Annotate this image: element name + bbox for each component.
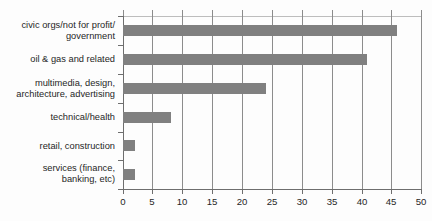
gridline-10 — [182, 16, 183, 189]
category-label: services (finance, banking, etc) — [0, 163, 115, 186]
x-axis-tick — [152, 189, 153, 194]
x-axis-tick-label: 5 — [137, 196, 167, 207]
bar-civic-orgs — [123, 25, 397, 36]
x-axis-tick-label: 20 — [227, 196, 257, 207]
category-label: oil & gas and related — [0, 54, 115, 65]
category-axis-labels: civic orgs/not for profit/ government oi… — [0, 16, 119, 189]
category-label: retail, construction — [0, 141, 115, 152]
gridline-50 — [421, 16, 422, 189]
category-label: technical/health — [0, 112, 115, 123]
gridline-0 — [123, 16, 124, 189]
x-axis-tick — [421, 189, 422, 194]
x-axis-tick — [123, 189, 124, 194]
x-axis-tick-label: 25 — [257, 196, 287, 207]
x-axis-tick-label: 10 — [167, 196, 197, 207]
gridline-25 — [272, 16, 273, 189]
x-axis-tick — [242, 189, 243, 194]
x-axis-tick — [362, 189, 363, 194]
bar-technical-health — [123, 112, 171, 123]
gridline-40 — [362, 16, 363, 189]
x-axis-tick-label: 35 — [317, 196, 347, 207]
gridline-15 — [212, 16, 213, 189]
x-axis-tick-label: 0 — [108, 196, 138, 207]
x-axis-tick — [272, 189, 273, 194]
category-label: multimedia, design, architecture, advert… — [0, 78, 115, 101]
bar-oil-gas — [123, 54, 367, 65]
plot-area — [123, 16, 421, 189]
bar-retail-construction — [123, 140, 135, 151]
bar-services — [123, 169, 135, 180]
gridline-30 — [302, 16, 303, 189]
gridline-45 — [391, 16, 392, 189]
gridline-20 — [242, 16, 243, 189]
x-axis-tick-label: 15 — [197, 196, 227, 207]
x-axis-tick-label: 45 — [376, 196, 406, 207]
bar-chart: civic orgs/not for profit/ government oi… — [0, 0, 432, 221]
x-axis-tick-label: 40 — [347, 196, 377, 207]
bar-multimedia — [123, 83, 266, 94]
category-label: civic orgs/not for profit/ government — [0, 20, 115, 43]
x-axis-tick — [302, 189, 303, 194]
x-axis-tick-label: 30 — [287, 196, 317, 207]
x-axis-tick — [212, 189, 213, 194]
gridline-35 — [332, 16, 333, 189]
x-axis-tick — [332, 189, 333, 194]
x-axis-tick — [182, 189, 183, 194]
gridline-5 — [152, 16, 153, 189]
x-axis-tick-label: 50 — [406, 196, 432, 207]
x-axis-tick — [391, 189, 392, 194]
